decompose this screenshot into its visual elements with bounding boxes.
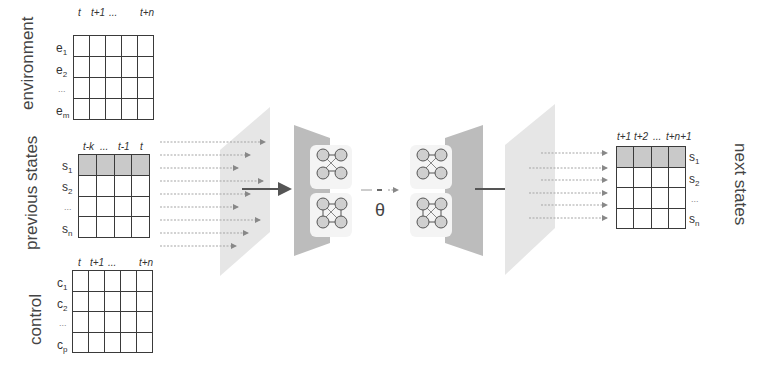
next-row-1: s1 — [689, 150, 699, 166]
ctrl-row-2: c2 — [57, 297, 67, 313]
ctrl-col-t1: t+1 — [90, 257, 104, 268]
ctrl-row-1: c1 — [57, 276, 67, 292]
next-row-2: s2 — [689, 172, 699, 188]
previous-states-grid — [78, 154, 150, 238]
next-row-ellipsis: ... — [691, 194, 699, 204]
previous-states-label: previous states — [22, 130, 42, 250]
control-label: control — [26, 285, 46, 345]
env-row-1: e1 — [56, 41, 67, 57]
env-row-2: e2 — [56, 63, 67, 79]
input-embedding-plane — [220, 107, 270, 276]
prev-row-ellipsis: ... — [64, 202, 72, 212]
env-row-m: em — [56, 104, 69, 120]
env-col-tn: t+n — [140, 7, 154, 18]
prev-col-t: t — [140, 141, 143, 152]
model-parameters-theta: θ — [375, 200, 385, 221]
prev-row-1: s1 — [62, 159, 72, 175]
env-col-t1: t+1 — [91, 7, 105, 18]
ctrl-row-p: cp — [57, 338, 67, 354]
environment-grid — [73, 35, 154, 120]
ctrl-row-ellipsis: ... — [59, 318, 67, 328]
next-states-grid — [616, 146, 686, 229]
output-projection-plane — [505, 104, 555, 275]
next-col-t2: t+2 — [634, 131, 648, 142]
environment-label: environment — [18, 20, 38, 110]
next-col-ellipsis: ... — [653, 131, 661, 142]
control-grid — [72, 270, 153, 353]
ctrl-col-ellipsis: ... — [108, 257, 116, 268]
prev-row-n: sn — [62, 222, 72, 238]
ctrl-col-tn: t+n — [139, 257, 153, 268]
env-col-t: t — [78, 7, 81, 18]
ctrl-col-t: t — [78, 257, 81, 268]
next-row-n: sn — [689, 212, 699, 228]
prev-row-2: s2 — [62, 180, 72, 196]
env-row-ellipsis: ... — [58, 84, 66, 94]
prev-col-tk: t-k — [83, 141, 94, 152]
next-col-tn1: t+n+1 — [666, 131, 692, 142]
env-col-ellipsis: ... — [109, 7, 117, 18]
decoder-trapezoid — [445, 125, 483, 256]
next-col-t1: t+1 — [617, 131, 631, 142]
prev-col-ellipsis: ... — [100, 141, 108, 152]
next-states-label: next states — [730, 143, 750, 233]
prev-col-t1: t-1 — [118, 141, 130, 152]
